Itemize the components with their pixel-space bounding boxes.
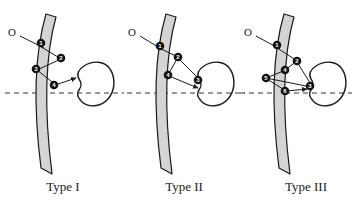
marker-1-4: 4 [50,81,59,90]
source-label-2: O [128,26,136,38]
marker-1-2: 2 [57,54,66,63]
marker-1-3: 3 [32,65,41,74]
marker-3-5: 5 [262,74,271,83]
optics-diagram-figure: O 1 2 3 4 Type I [0,0,356,206]
panel-label-type-3: Type III [285,179,327,194]
figure-background [0,0,356,206]
marker-1-1: 1 [37,39,46,48]
panel-label-type-1: Type I [46,179,79,194]
marker-3-1: 1 [273,41,282,50]
marker-2-1: 1 [156,42,165,51]
marker-2-2: 2 [174,53,183,62]
source-label-3: O [244,26,252,38]
marker-3-2: 2 [293,57,302,66]
marker-2-3: 3 [194,76,203,85]
source-label-1: O [8,26,16,38]
panel-label-type-2: Type II [165,179,203,194]
marker-2-4: 4 [164,71,173,80]
marker-3-3: 3 [306,82,315,91]
marker-3-4: 4 [281,66,290,75]
marker-3-6: 6 [281,87,290,96]
